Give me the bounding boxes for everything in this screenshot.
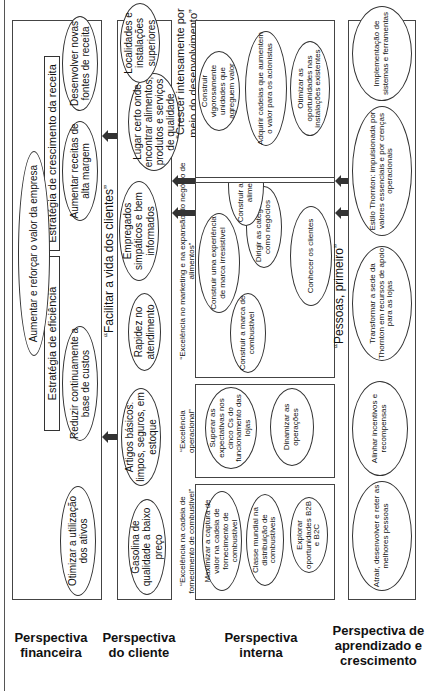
learning-item-systems: Implementação de sistemas e ferramentas: [352, 6, 412, 101]
client-item-basic-items: Artigos básicos: limpos, seguros, em est…: [121, 388, 161, 486]
arrow-internal-to-client-2: [172, 175, 195, 187]
marketing-item-brand-experience: Construir uma experiência de marca irres…: [198, 213, 240, 313]
client-item-gasoline: Gasolina de qualidade a baixo preço: [128, 499, 166, 595]
learning-item-attract: Atrair, desenvolver e reter as melhores …: [352, 481, 412, 591]
growth-item-build-units: Construir vigorosamente unidades que agr…: [198, 51, 240, 131]
balanced-scorecard-diagram: Estratégia de eficiência Estratégia de c…: [0, 0, 433, 691]
perspective-label-learning: Perspectiva de aprendizado e crescimento: [325, 624, 431, 669]
arrow-internal-to-client-1: [172, 207, 195, 219]
marketing-title: “Excelência no marketing e na expansão d…: [178, 161, 196, 361]
operational-title: “Excelência operacional”: [178, 396, 196, 466]
client-item-friendly-staff: Empregados simpáticos e bem informados: [119, 181, 159, 281]
arrow-client-to-financial-1: [102, 431, 117, 443]
learning-item-incentives: Alinhar incentivos e recompensas: [352, 381, 408, 476]
arrow-learning-to-internal-2: [335, 175, 348, 187]
learning-item-thornton-style: Estilo Thornton: impulsionada por valore…: [352, 106, 412, 236]
fuel-chain-title: “Excelência na cadeia de fornecimento de…: [178, 486, 196, 596]
perspective-label-client: Perspectiva do cliente: [96, 631, 182, 661]
client-item-locations: Localidades e instalações superiores: [120, 3, 160, 83]
growth-box-divider: [195, 177, 335, 183]
growth-item-acquire-chains: Adquirir cadeias que aumentem o valor pa…: [245, 31, 287, 146]
fuel-item-b2b-b2c: Explorar oportunidades B2B e B2C: [290, 497, 328, 573]
client-item-fast-service: Rapidez no atendimento: [128, 293, 161, 371]
growth-item-existing-facilities: Otimizar as oportunidades nas instalaçõe…: [290, 41, 330, 136]
marketing-item-know-customers: Conhecer os clientes: [290, 206, 332, 306]
financial-goal-ellipse: Aumentar e reforçar o valor da empresa: [18, 151, 50, 356]
fuel-item-maximize-value: Maximizar a captura de valor na cadeia d…: [202, 491, 242, 591]
learning-theme: “Pessoas, primeiro”: [333, 221, 347, 371]
arrow-client-to-financial-2: [102, 130, 117, 142]
learning-item-transform-hq: Transformar a sede da Thornton em recurs…: [352, 246, 412, 361]
growth-item-high-margin: Aumentar receitas de alta margem: [62, 121, 98, 221]
client-theme: “Facilitar a vida dos clientes”: [103, 141, 117, 381]
marketing-item-fuel-brand: Construir a marca de combustível: [230, 293, 266, 373]
perspective-label-internal: Perspectiva interna: [218, 631, 304, 661]
client-item-right-place: Lugar certo onde encontrar alimentos, pr…: [128, 73, 180, 171]
fuel-item-world-class: Classe mundial na distribuição de combus…: [246, 494, 284, 586]
growth-item-new-sources: Desenvolver novas fontes de receita: [62, 16, 98, 111]
operational-item-five-cs: Superar as expectativas nos cinco Cs do …: [205, 387, 257, 469]
operational-item-streamline: Dinamizar as operações: [270, 388, 314, 466]
perspective-label-financial: Perspectiva financeira: [8, 631, 94, 661]
efficiency-item-reduce-costs: Reduzir continuamente a base de custos: [62, 326, 98, 441]
arrow-learning-to-internal-1: [335, 207, 348, 219]
efficiency-item-optimize-assets: Otimizar a utilização dos ativos: [60, 486, 96, 596]
